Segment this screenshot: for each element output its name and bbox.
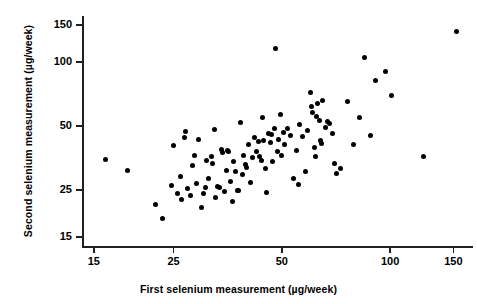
x-tick-mark	[173, 247, 175, 253]
data-point	[269, 132, 274, 137]
data-point	[268, 140, 273, 145]
data-point	[171, 143, 176, 148]
data-point	[312, 145, 317, 150]
x-axis-title: First selenium measurement (µg/week)	[0, 283, 477, 295]
y-tick-label: 100	[42, 55, 72, 67]
data-point	[351, 142, 356, 147]
data-point	[320, 98, 325, 103]
data-point	[236, 188, 241, 193]
data-point	[288, 133, 293, 138]
data-point	[260, 115, 265, 120]
data-point	[201, 191, 206, 196]
data-point	[175, 191, 180, 196]
data-point	[332, 161, 337, 166]
y-tick-mark	[76, 125, 82, 127]
data-point	[330, 131, 335, 136]
data-point	[383, 69, 388, 74]
data-point	[296, 182, 301, 187]
data-point	[217, 185, 222, 190]
data-point	[212, 127, 217, 132]
data-point	[188, 193, 193, 198]
data-point	[206, 176, 211, 181]
data-point	[368, 133, 373, 138]
data-point	[300, 134, 305, 139]
data-point	[230, 199, 235, 204]
data-point	[240, 172, 245, 177]
y-axis-title: Second selenium measurement (µg/week)	[22, 6, 34, 256]
y-tick-label: 150	[42, 18, 72, 30]
x-tick-mark	[453, 247, 455, 253]
x-tick-label: 100	[370, 255, 410, 267]
data-point	[294, 148, 299, 153]
data-point	[291, 176, 296, 181]
data-point	[199, 205, 204, 210]
y-tick-mark	[76, 61, 82, 63]
data-point	[264, 190, 269, 195]
data-point	[203, 185, 208, 190]
data-point	[153, 202, 158, 207]
data-point	[238, 120, 243, 125]
data-point	[169, 183, 174, 188]
data-point	[421, 154, 426, 159]
data-point	[179, 197, 184, 202]
data-point	[231, 159, 236, 164]
data-point	[244, 165, 249, 170]
data-point	[248, 180, 253, 185]
data-point	[226, 149, 231, 154]
data-point	[213, 195, 218, 200]
data-point	[313, 154, 318, 159]
data-point	[345, 99, 350, 104]
data-point	[185, 186, 190, 191]
data-point	[285, 126, 290, 131]
data-point	[182, 135, 187, 140]
data-point	[160, 216, 165, 221]
data-point	[261, 138, 266, 143]
data-point	[210, 161, 215, 166]
data-point	[233, 169, 238, 174]
data-point	[282, 142, 287, 147]
data-point	[305, 128, 310, 133]
x-tick-mark	[389, 247, 391, 253]
x-tick-mark	[281, 247, 283, 253]
data-point	[178, 174, 183, 179]
data-point	[454, 29, 459, 34]
data-point	[259, 158, 264, 163]
data-point	[190, 163, 195, 168]
data-point	[281, 130, 286, 135]
data-point	[278, 112, 283, 117]
x-tick-label: 150	[433, 255, 473, 267]
data-point	[103, 157, 108, 162]
data-point	[389, 93, 394, 98]
y-tick-mark	[76, 236, 82, 238]
data-point	[246, 142, 251, 147]
data-point	[204, 158, 209, 163]
data-point	[263, 166, 268, 171]
x-tick-mark	[93, 247, 95, 253]
y-tick-mark	[76, 189, 82, 191]
data-point	[308, 90, 313, 95]
data-point	[357, 115, 362, 120]
data-point	[250, 155, 255, 160]
data-point	[276, 137, 281, 142]
y-tick-label: 50	[42, 119, 72, 131]
data-point	[272, 126, 277, 131]
data-point	[273, 46, 278, 51]
data-point	[125, 168, 130, 173]
data-point	[362, 55, 367, 60]
data-point	[319, 141, 324, 146]
y-tick-mark	[76, 24, 82, 26]
x-tick-label: 15	[74, 255, 114, 267]
data-point	[228, 179, 233, 184]
data-point	[338, 166, 343, 171]
data-point	[194, 181, 199, 186]
data-point	[327, 121, 332, 126]
data-point	[297, 122, 302, 127]
data-point	[270, 159, 275, 164]
y-tick-label: 15	[42, 230, 72, 242]
plot-area	[83, 16, 473, 247]
data-point	[317, 118, 322, 123]
data-point	[279, 153, 284, 158]
data-point	[183, 129, 188, 134]
data-point	[373, 78, 378, 83]
data-point	[256, 139, 261, 144]
